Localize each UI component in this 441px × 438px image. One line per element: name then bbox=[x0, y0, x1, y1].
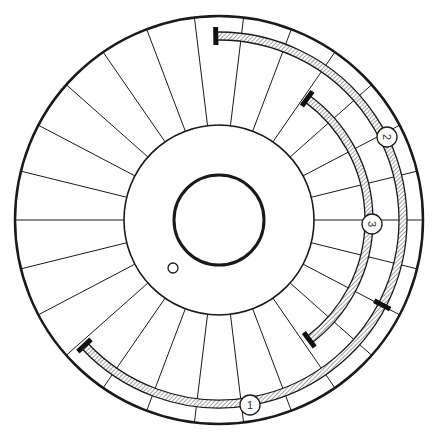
label-number: 1 bbox=[247, 399, 253, 411]
label-number: 2 bbox=[381, 134, 393, 140]
label-2: 2 bbox=[377, 127, 397, 147]
radial-line bbox=[194, 17, 207, 125]
label-3: 3 bbox=[362, 214, 382, 234]
radial-line bbox=[21, 243, 127, 269]
radial-line bbox=[21, 171, 127, 197]
label-1: 1 bbox=[240, 395, 260, 415]
radial-line bbox=[147, 29, 186, 131]
wheel-diagram: 123 bbox=[0, 0, 441, 438]
label-number: 3 bbox=[366, 221, 378, 227]
middle-circle bbox=[124, 125, 314, 315]
radial-line bbox=[103, 52, 165, 142]
